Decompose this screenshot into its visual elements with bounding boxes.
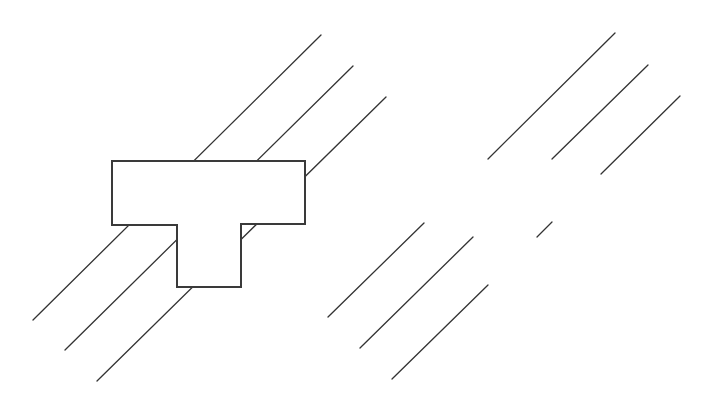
right-parallel-line-segments (328, 33, 680, 379)
right-line-1 (488, 33, 615, 159)
right-line-2 (552, 65, 648, 159)
right-line-6 (392, 285, 488, 379)
t-shaped-block (112, 161, 305, 287)
right-line-4 (328, 223, 424, 317)
right-line-5 (360, 237, 473, 348)
right-line-3 (601, 96, 680, 174)
right-line-7 (537, 222, 552, 237)
diagram-svg (0, 0, 708, 409)
diagram-canvas (0, 0, 708, 409)
